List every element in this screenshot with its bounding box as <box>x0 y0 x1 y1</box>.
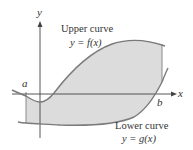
y-axis-label: y <box>36 6 42 18</box>
upper-curve-equation: y = f(x) <box>69 37 102 49</box>
upper-curve-title: Upper curve <box>61 23 114 34</box>
lower-curve-title: Lower curve <box>115 120 169 131</box>
bound-label-b: b <box>157 96 163 108</box>
bound-label-a: a <box>22 77 28 89</box>
area-between-curves-diagram: y x a b Upper curve y = f(x) Lower curve… <box>0 0 193 150</box>
x-axis-label: x <box>177 87 183 99</box>
lower-curve-equation: y = g(x) <box>121 133 156 145</box>
y-axis-arrow-icon <box>38 21 43 27</box>
x-axis-arrow-icon <box>171 92 177 97</box>
